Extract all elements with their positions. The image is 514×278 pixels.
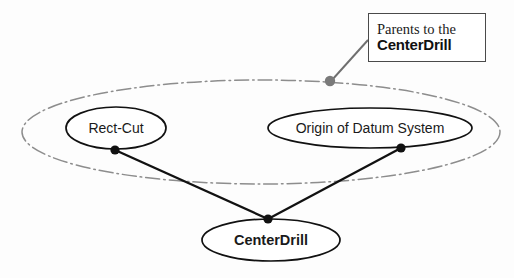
node-label-origin-of-datum-system: Origin of Datum System [296, 120, 445, 136]
rect-cut-vertex-dot [110, 145, 119, 154]
node-label-center-drill: CenterDrill [234, 232, 308, 248]
callout-anchor-dot [325, 76, 335, 86]
node-label-rect-cut: Rect-Cut [88, 120, 143, 136]
origin-vertex-dot [396, 143, 405, 152]
callout-leader-line [332, 40, 368, 80]
callout-text-line1: Parents to the [377, 22, 485, 37]
diagram-canvas: Rect-Cut Origin of Datum System CenterDr… [0, 0, 514, 278]
callout-box: Parents to the CenterDrill [368, 13, 486, 62]
callout-text-line2: CenterDrill [377, 37, 485, 54]
center-drill-vertex-dot [263, 214, 272, 223]
